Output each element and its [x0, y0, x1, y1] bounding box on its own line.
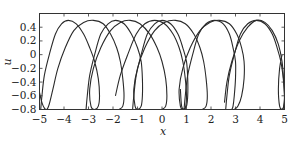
- plot-area: [40, 20, 285, 110]
- y-tick-label: 0.2: [20, 34, 37, 46]
- y-tick-label: −0.8: [11, 103, 37, 115]
- x-tick-label: 3: [232, 113, 239, 125]
- chart: −5−4−3−2−1012345 0.40.20−0.2−0.4−0.6−0.8…: [0, 0, 297, 143]
- x-axis-ticks: −5−4−3−2−1012345: [32, 14, 288, 125]
- series-curve-6: [115, 20, 186, 109]
- x-tick-label: 5: [281, 113, 288, 125]
- series-curve-5: [40, 20, 125, 109]
- x-tick-label: 2: [208, 113, 215, 125]
- y-tick-label: 0: [30, 48, 37, 60]
- x-tick-label: 4: [257, 113, 264, 125]
- y-tick-label: −0.2: [11, 62, 37, 74]
- x-tick-label: −1: [130, 113, 145, 125]
- x-tick-label: 0: [159, 113, 166, 125]
- x-axis-label: x: [160, 125, 167, 138]
- y-tick-label: 0.4: [20, 21, 37, 33]
- y-axis-ticks: 0.40.20−0.2−0.4−0.6−0.8: [11, 21, 285, 115]
- x-tick-label: 1: [183, 113, 190, 125]
- series-curve-2: [86, 20, 207, 109]
- y-tick-label: −0.4: [11, 76, 37, 88]
- x-tick-label: −3: [81, 113, 96, 125]
- y-axis-label: u: [1, 58, 14, 65]
- series-curve-7: [184, 20, 236, 109]
- x-tick-label: −4: [56, 113, 72, 125]
- x-tick-label: −2: [105, 113, 120, 125]
- y-tick-label: −0.6: [11, 89, 37, 101]
- series-curve-8: [224, 20, 284, 109]
